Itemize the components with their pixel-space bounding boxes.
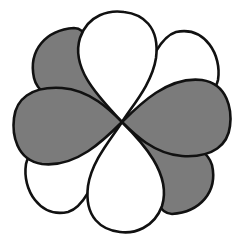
orbital-lobe-diagram xyxy=(0,0,243,243)
